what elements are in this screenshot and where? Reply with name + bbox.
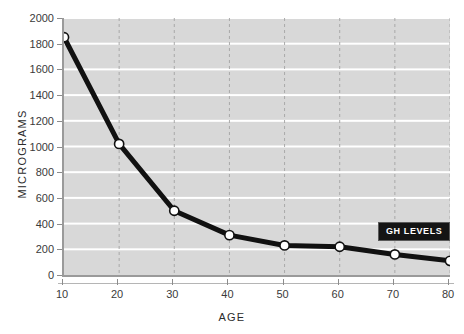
y-tick (57, 147, 62, 148)
y-tick-label: 1200 (30, 115, 54, 127)
y-tick-label: 600 (36, 192, 54, 204)
y-tick-label: 2000 (30, 12, 54, 24)
x-tick (338, 279, 339, 285)
x-tick-label: 20 (111, 288, 123, 300)
growth-hormone-line-chart: 2000180016001400120010008006004002000 10… (0, 0, 464, 334)
y-tick-label: 200 (36, 243, 54, 255)
y-tick-label: 1000 (30, 141, 54, 153)
x-tick-label: 50 (276, 288, 288, 300)
y-tick-label: 1600 (30, 63, 54, 75)
y-tick-label: 400 (36, 218, 54, 230)
y-tick (57, 198, 62, 199)
x-tick (62, 279, 63, 285)
y-tick (57, 44, 62, 45)
legend-badge-gh-levels: GH LEVELS (378, 222, 450, 241)
y-tick-label: 1800 (30, 38, 54, 50)
x-tick-label: 40 (221, 288, 233, 300)
y-tick (57, 275, 62, 276)
x-tick (393, 279, 394, 285)
x-tick-label: 60 (332, 288, 344, 300)
y-axis-title: MICROGRAMS (16, 94, 28, 214)
y-tick-label: 800 (36, 166, 54, 178)
y-tick (57, 249, 62, 250)
y-tick (57, 172, 62, 173)
y-tick (57, 95, 62, 96)
y-tick (57, 69, 62, 70)
y-tick (57, 224, 62, 225)
x-tick-label: 70 (387, 288, 399, 300)
y-tick-label: 0 (48, 269, 54, 281)
x-tick (448, 279, 449, 285)
x-tick-label: 30 (166, 288, 178, 300)
x-tick (172, 279, 173, 285)
y-tick (57, 121, 62, 122)
x-tick-label: 10 (56, 288, 68, 300)
x-tick-label: 80 (442, 288, 454, 300)
y-tick-label: 1400 (30, 89, 54, 101)
x-axis-title: AGE (0, 311, 464, 323)
x-tick (283, 279, 284, 285)
x-tick (227, 279, 228, 285)
y-tick (57, 18, 62, 19)
x-tick (117, 279, 118, 285)
chart-title-clipped (0, 0, 464, 11)
